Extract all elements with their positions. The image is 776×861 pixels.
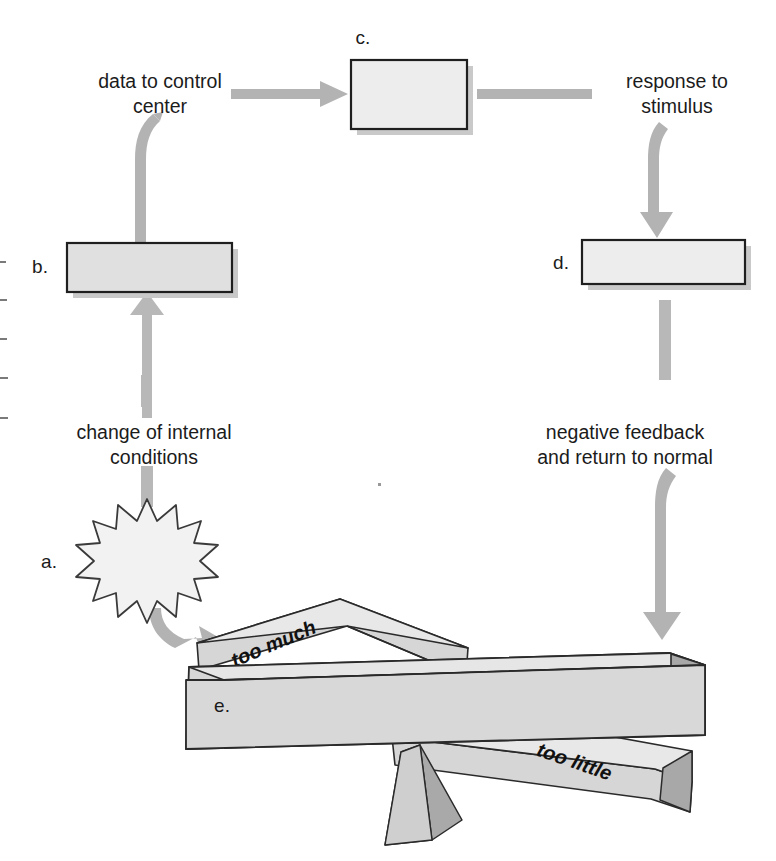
connector-box-d-to-feedback-text: [659, 300, 671, 380]
label-negative-feedback: negative feedback and return to normal: [537, 421, 713, 468]
label-response-to-stimulus: response to stimulus: [626, 70, 728, 117]
arrow-feedback-to-balance-beam: [643, 468, 681, 640]
label-data-to-control-center: data to control center: [98, 70, 222, 117]
beam-balance-e[interactable]: e.: [186, 653, 705, 749]
arrow-b-to-data-text: [135, 112, 163, 243]
connector-box-c-to-response-text: [477, 89, 592, 99]
arrow-response-text-to-box-d: [640, 122, 673, 238]
svg-text:change of internal: change of internal: [76, 421, 231, 443]
svg-text:negative feedback: negative feedback: [546, 421, 705, 443]
star-burst-letter: a.: [41, 551, 57, 572]
beam-balance-label: e.: [214, 695, 230, 716]
svg-text:data to control: data to control: [98, 70, 222, 92]
star-burst-a[interactable]: [76, 499, 218, 623]
box-c-letter: c.: [356, 27, 371, 48]
feedback-loop-diagram: too much too little e. b. c. d.: [0, 0, 776, 861]
connector-above-conditions: [141, 375, 152, 407]
label-change-of-internal-conditions: change of internal conditions: [76, 421, 231, 468]
box-b-letter: b.: [32, 256, 48, 277]
arrow-text-to-box-c: [231, 81, 348, 107]
svg-text:stimulus: stimulus: [641, 95, 713, 117]
svg-text:center: center: [133, 95, 188, 117]
svg-text:conditions: conditions: [110, 446, 198, 468]
box-c[interactable]: [351, 60, 467, 129]
svg-text:response to: response to: [626, 70, 728, 92]
box-d-letter: d.: [553, 252, 569, 273]
box-b[interactable]: [67, 243, 232, 292]
svg-text:and return to normal: and return to normal: [537, 446, 713, 468]
box-d[interactable]: [582, 240, 745, 284]
diagram-canvas: too much too little e. b. c. d.: [0, 0, 776, 861]
